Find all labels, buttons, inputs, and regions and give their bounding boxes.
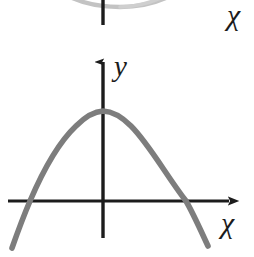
main-plot-group <box>8 62 229 248</box>
figure-canvas <box>0 0 254 257</box>
parabola-curve <box>12 111 208 248</box>
math-figure: y χ χ <box>0 0 254 257</box>
y-axis-label: y <box>114 52 127 81</box>
top-fragment-group <box>68 0 170 25</box>
x-axis-label: χ <box>221 208 234 238</box>
top-fragment-x-axis-label: χ <box>227 0 240 30</box>
